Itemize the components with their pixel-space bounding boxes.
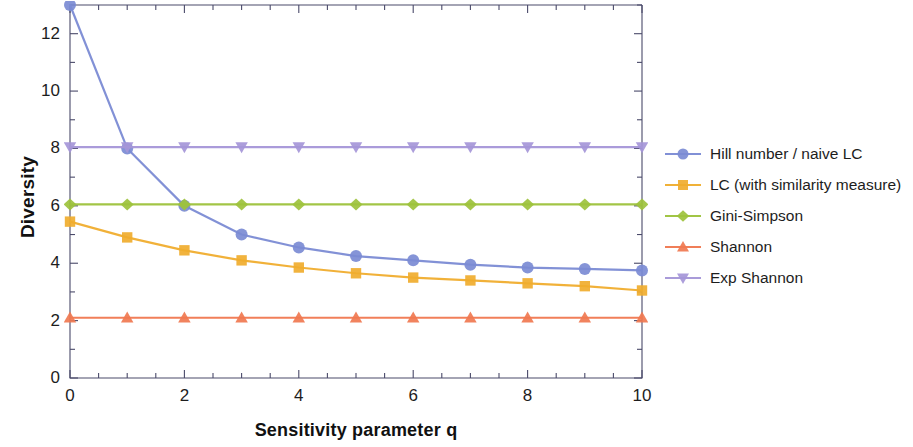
- legend-label: LC (with similarity measure): [710, 177, 901, 193]
- x-axis-tick-label: 4: [279, 386, 319, 406]
- series-marker: [293, 241, 305, 253]
- series-marker: [350, 250, 362, 262]
- series-marker: [64, 0, 76, 11]
- series-marker: [235, 198, 248, 210]
- series-marker: [636, 264, 648, 276]
- y-axis-tick-label: 2: [20, 311, 60, 331]
- legend-marker-diamond-icon: [664, 207, 702, 225]
- x-axis-tick-label: 2: [164, 386, 204, 406]
- series-marker: [121, 198, 134, 210]
- series-marker: [579, 263, 591, 275]
- series-marker: [637, 285, 647, 295]
- legend-marker-square-icon: [664, 176, 702, 194]
- series-marker: [350, 198, 363, 210]
- legend-item[interactable]: Gini-Simpson: [664, 200, 912, 231]
- series-marker: [64, 198, 77, 210]
- series-marker: [580, 281, 590, 291]
- series-line: [70, 5, 642, 270]
- series-marker: [636, 198, 649, 210]
- series-marker: [408, 272, 418, 282]
- y-axis-tick-label: 12: [20, 24, 60, 44]
- y-axis-tick-label: 4: [20, 253, 60, 273]
- series-marker: [292, 198, 305, 210]
- series-marker: [179, 245, 189, 255]
- series-group: [64, 0, 649, 322]
- series-marker: [521, 198, 534, 210]
- legend-item[interactable]: Exp Shannon: [664, 262, 912, 293]
- series-marker: [522, 262, 534, 274]
- y-axis-tick-label: 10: [20, 81, 60, 101]
- series-marker: [122, 232, 132, 242]
- legend-label: Shannon: [710, 239, 772, 255]
- series-marker: [522, 278, 532, 288]
- series-marker: [351, 268, 361, 278]
- chart-legend: Hill number / naive LCLC (with similarit…: [664, 138, 912, 293]
- series-marker: [578, 198, 591, 210]
- series-marker: [236, 229, 248, 241]
- legend-item[interactable]: LC (with similarity measure): [664, 169, 912, 200]
- legend-label: Gini-Simpson: [710, 208, 803, 224]
- legend-marker-triangle-down-icon: [664, 269, 702, 287]
- series-marker: [407, 198, 420, 210]
- legend-label: Hill number / naive LC: [710, 146, 862, 162]
- series-marker: [65, 216, 75, 226]
- x-axis-tick-label: 0: [50, 386, 90, 406]
- x-axis-tick-label: 10: [622, 386, 662, 406]
- y-axis-tick-label: 8: [20, 138, 60, 158]
- legend-marker-triangle-up-icon: [664, 238, 702, 256]
- x-axis-tick-label: 6: [393, 386, 433, 406]
- x-axis-tick-label: 8: [508, 386, 548, 406]
- series-marker: [464, 198, 477, 210]
- legend-label: Exp Shannon: [710, 270, 803, 286]
- y-axis-tick-label: 0: [20, 368, 60, 388]
- series-marker: [236, 255, 246, 265]
- diversity-chart-figure: Diversity Sensitivity parameter q 024681…: [0, 0, 913, 447]
- legend-item[interactable]: Hill number / naive LC: [664, 138, 912, 169]
- series-marker: [407, 254, 419, 266]
- series-marker: [465, 275, 475, 285]
- legend-item[interactable]: Shannon: [664, 231, 912, 262]
- series-marker: [294, 262, 304, 272]
- series-marker: [464, 259, 476, 271]
- y-axis-tick-label: 6: [20, 196, 60, 216]
- legend-marker-circle-icon: [664, 145, 702, 163]
